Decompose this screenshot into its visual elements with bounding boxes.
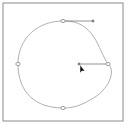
anchor-point-left[interactable] — [16, 62, 20, 65]
anchor-point-right[interactable] — [106, 62, 110, 65]
anchor-point-top[interactable] — [61, 19, 65, 22]
anchor-point-bottom[interactable] — [61, 106, 65, 109]
bezier-canvas[interactable] — [0, 0, 131, 130]
